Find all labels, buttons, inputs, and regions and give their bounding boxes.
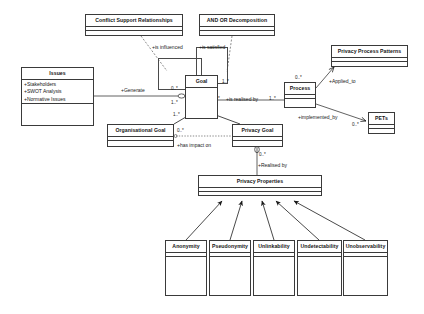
- class-operations: [254, 257, 294, 295]
- class-title: Privacy Process Patterns: [332, 46, 407, 58]
- class-box-unlinkability[interactable]: Unlinkability: [253, 240, 295, 296]
- class-operations: [285, 99, 315, 107]
- relationship-label-has-impact-on: +has impact on: [177, 142, 211, 148]
- multiplicity-goal-organisational: 1..*: [173, 112, 180, 118]
- class-title: Conflict Support Relationships: [86, 15, 182, 27]
- multiplicity-process-top: 0..*: [295, 75, 302, 81]
- class-operations: [166, 257, 206, 295]
- multiplicity-goal-left-bottom: 1..*: [171, 100, 178, 106]
- class-title: Organisational Goal: [108, 125, 173, 137]
- class-operations: [369, 129, 394, 133]
- class-operations: [344, 257, 387, 295]
- class-box-privacy-goal[interactable]: Privacy Goal: [232, 124, 283, 147]
- relationship-label-is-realised-by: +is realised by: [226, 96, 258, 102]
- class-box-conflict-support-relationships[interactable]: Conflict Support Relationships: [85, 14, 183, 36]
- class-title: Process: [285, 83, 315, 95]
- class-box-privacy-process-patterns[interactable]: Privacy Process Patterns: [331, 45, 408, 67]
- relationship-label-implemented-by: +implemented_by: [298, 114, 338, 120]
- class-box-process[interactable]: Process: [284, 82, 316, 108]
- class-title: Unlinkability: [254, 241, 294, 253]
- class-operations: [199, 192, 321, 196]
- class-operations: [200, 31, 274, 35]
- uml-diagram-canvas: Conflict Support Relationships AND OR De…: [0, 0, 424, 314]
- multiplicity-organisational-right: 0..*: [177, 128, 184, 134]
- class-title: Anonymity: [166, 241, 206, 253]
- class-title: Undetectability: [298, 241, 341, 253]
- multiplicity-privacy-goal-bottom: 0..*: [259, 152, 266, 158]
- class-box-pseudonymity[interactable]: Pseudonymity: [209, 240, 251, 296]
- class-title: Issues: [22, 68, 93, 80]
- attribute-swot-analysis: +SWOT Analysis: [24, 88, 91, 96]
- class-operations: [186, 88, 217, 118]
- relationship-label-is-satisfied: +is satisfied: [199, 44, 225, 50]
- class-box-undetectability[interactable]: Undetectability: [297, 240, 342, 296]
- multiplicity-pets-left: 0..*: [352, 122, 359, 128]
- class-title: Goal: [186, 76, 217, 88]
- class-box-issues[interactable]: Issues +Stakeholders +SWOT Analysis +Nor…: [21, 67, 94, 126]
- multiplicity-goal-right-top: 1..*: [222, 79, 229, 85]
- class-attributes: +Stakeholders +SWOT Analysis +Normative …: [22, 80, 93, 104]
- class-operations: [22, 104, 93, 125]
- class-box-and-or-decomposition[interactable]: AND OR Decomposition: [199, 14, 275, 36]
- multiplicity-realised-right: 1..*: [269, 96, 276, 102]
- attribute-normative-issues: +Normative Issues: [24, 96, 91, 104]
- relationship-label-is-influenced: +is influenced: [152, 44, 183, 50]
- class-box-privacy-properties[interactable]: Privacy Properties: [198, 175, 322, 196]
- class-operations: [86, 31, 182, 35]
- class-operations: [108, 141, 173, 146]
- class-operations: [233, 141, 282, 146]
- class-operations: [210, 257, 250, 295]
- class-title: Privacy Goal: [233, 125, 282, 137]
- class-title: Pseudonymity: [210, 241, 250, 253]
- class-box-organisational-goal[interactable]: Organisational Goal: [107, 124, 174, 147]
- class-title: Unobservability: [344, 241, 387, 253]
- relationship-label-generate: +Generate: [121, 87, 145, 93]
- class-box-unobservability[interactable]: Unobservability: [343, 240, 388, 296]
- class-title: Privacy Properties: [199, 176, 321, 188]
- class-operations: [332, 62, 407, 66]
- attribute-stakeholders: +Stakeholders: [24, 81, 91, 89]
- class-box-anonymity[interactable]: Anonymity: [165, 240, 207, 296]
- relationship-label-realised-by: +Realised by: [258, 162, 287, 168]
- relationship-label-applied-to: +Applied_to: [329, 78, 356, 84]
- multiplicity-goal-left-top: 0..*: [171, 86, 178, 92]
- class-operations: [298, 257, 341, 295]
- class-box-goal[interactable]: Goal: [185, 75, 218, 119]
- class-title: AND OR Decomposition: [200, 15, 274, 27]
- class-box-pets[interactable]: PETs: [368, 112, 395, 134]
- class-title: PETs: [369, 113, 394, 125]
